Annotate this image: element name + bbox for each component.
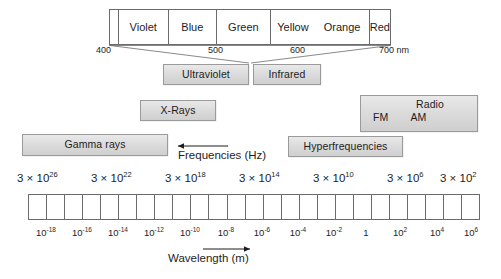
ruler-segment: [354, 195, 372, 219]
nm-tick-700: 700 nm: [379, 45, 409, 55]
wavelength-axis-caption: Wavelength (m): [168, 252, 249, 264]
nm-tick-400: 400: [96, 45, 111, 55]
ruler-segment: [390, 195, 408, 219]
frequency-tick-mantissa: 3 × 10: [17, 172, 49, 184]
wavelength-tick: 10-10: [180, 226, 200, 238]
wavelength-tick-mantissa: 10: [72, 227, 83, 238]
wavelength-ruler: [28, 194, 480, 220]
wavelength-tick-exponent: 2: [403, 226, 407, 233]
ruler-segment: [137, 195, 155, 219]
band-hyperfrequencies-label: Hyperfrequencies: [304, 141, 388, 153]
wavelength-tick-exponent: -16: [83, 226, 92, 233]
ruler-segment: [83, 195, 101, 219]
wavelength-tick: 104: [430, 226, 444, 238]
wavelength-tick-mantissa: 10: [326, 227, 337, 238]
visible-segment-red: Red: [370, 10, 390, 44]
wavelength-tick-mantissa: 10: [144, 227, 155, 238]
frequency-tick-exponent: 10: [345, 170, 353, 179]
wavelength-tick: 1: [363, 226, 368, 238]
ruler-segment: [29, 195, 47, 219]
frequency-tick-exponent: 26: [49, 170, 57, 179]
ruler-segment: [209, 195, 227, 219]
ruler-segment: [246, 195, 264, 219]
wavelength-tick: 10-2: [326, 226, 342, 238]
wavelength-tick-exponent: -8: [228, 226, 234, 233]
frequency-tick-exponent: 18: [197, 170, 205, 179]
ruler-segment: [47, 195, 65, 219]
frequency-tick: 3 × 1026: [17, 170, 58, 184]
ruler-segment: [228, 195, 246, 219]
wavelength-tick-exponent: -12: [155, 226, 164, 233]
ruler-segment: [318, 195, 336, 219]
ruler-segment: [65, 195, 83, 219]
frequency-tick: 3 × 1022: [91, 170, 132, 184]
ruler-segment: [426, 195, 444, 219]
visible-segment-orange: Orange: [315, 10, 370, 44]
ruler-segment: [444, 195, 462, 219]
wavelength-tick: 10-18: [36, 226, 56, 238]
nm-tick-600: 600: [290, 45, 305, 55]
wavelength-tick-mantissa: 1: [363, 227, 368, 238]
frequency-tick-exponent: 2: [472, 170, 476, 179]
wavelength-tick: 10-16: [72, 226, 92, 238]
frequency-tick: 3 × 1018: [165, 170, 206, 184]
wavelength-tick-mantissa: 10: [393, 227, 404, 238]
ruler-segment: [119, 195, 137, 219]
band-infrared[interactable]: Infrared: [253, 64, 321, 85]
ruler-segment: [336, 195, 354, 219]
wavelength-tick-mantissa: 10: [180, 227, 191, 238]
frequency-tick: 3 × 1010: [313, 170, 354, 184]
wavelength-tick-exponent: -18: [47, 226, 56, 233]
ruler-segment: [300, 195, 318, 219]
frequency-tick-mantissa: 3 × 10: [239, 172, 271, 184]
band-radio-title: Radio: [361, 99, 477, 111]
band-radio-am: AM: [410, 112, 426, 124]
wavelength-tick-exponent: -6: [264, 226, 270, 233]
wavelength-tick-mantissa: 10: [290, 227, 301, 238]
wavelength-tick: 102: [393, 226, 407, 238]
visible-segment-yellow: Yellow: [271, 10, 316, 44]
wavelength-tick: 106: [464, 226, 478, 238]
frequency-tick-mantissa: 3 × 10: [91, 172, 123, 184]
visible-segment-edge: [110, 10, 119, 44]
wavelength-tick: 10-14: [108, 226, 128, 238]
frequency-tick: 3 × 106: [387, 170, 423, 184]
band-infrared-label: Infrared: [269, 69, 306, 81]
frequency-tick-mantissa: 3 × 10: [313, 172, 345, 184]
ruler-segment: [408, 195, 426, 219]
wavelength-tick-mantissa: 10: [108, 227, 119, 238]
wavelength-tick-exponent: 6: [474, 226, 478, 233]
visible-light-spectrum-box: Violet Blue Green Yellow Orange Red: [109, 9, 391, 45]
wavelength-tick-mantissa: 10: [464, 227, 475, 238]
ruler-segment: [372, 195, 390, 219]
visible-segment-blue: Blue: [169, 10, 218, 44]
band-gamma-rays[interactable]: Gamma rays: [22, 134, 168, 156]
wavelength-tick-exponent: 4: [440, 226, 444, 233]
frequency-axis-arrow: [178, 143, 228, 149]
frequency-axis-caption: Frequencies (Hz): [178, 149, 266, 161]
wavelength-tick-exponent: -2: [336, 226, 342, 233]
frequency-tick-mantissa: 3 × 10: [165, 172, 197, 184]
band-hyperfrequencies[interactable]: Hyperfrequencies: [288, 136, 403, 157]
frequency-tick-exponent: 22: [123, 170, 131, 179]
wavelength-tick-mantissa: 10: [36, 227, 47, 238]
ruler-segment: [173, 195, 191, 219]
wavelength-tick-exponent: -14: [119, 226, 128, 233]
frequency-tick: 3 × 102: [440, 170, 476, 184]
visible-segment-violet: Violet: [119, 10, 169, 44]
wavelength-tick-mantissa: 10: [218, 227, 229, 238]
band-ultraviolet-label: Ultraviolet: [182, 69, 230, 81]
band-xrays[interactable]: X-Rays: [140, 100, 216, 121]
ruler-segment: [101, 195, 119, 219]
wavelength-tick-mantissa: 10: [430, 227, 441, 238]
frequency-tick-mantissa: 3 × 10: [387, 172, 419, 184]
band-gamma-rays-label: Gamma rays: [64, 139, 125, 151]
frequency-tick-mantissa: 3 × 10: [440, 172, 472, 184]
band-ultraviolet[interactable]: Ultraviolet: [163, 64, 249, 85]
wavelength-tick: 10-8: [218, 226, 234, 238]
band-radio[interactable]: Radio FM AM: [360, 95, 478, 132]
frequency-tick-exponent: 6: [419, 170, 423, 179]
frequency-tick-exponent: 14: [271, 170, 279, 179]
wavelength-axis-arrow: [203, 246, 250, 252]
band-xrays-label: X-Rays: [160, 105, 195, 117]
